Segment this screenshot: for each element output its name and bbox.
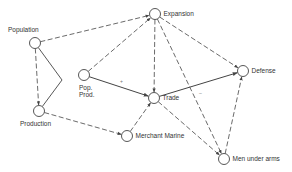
edge-expansion-trade: [154, 19, 155, 92]
label-pop-prod-line2: Prod.: [79, 91, 95, 98]
node-population: [30, 38, 41, 49]
edge-men_under_arms-defense: [225, 77, 242, 154]
node-defense: [238, 66, 249, 77]
edge-pop_prod-trade: [89, 77, 148, 96]
edge-merchant_marine-trade: [130, 103, 150, 132]
edge-production-merchant_marine: [44, 113, 121, 135]
edge-population-production: [35, 48, 38, 105]
label-pop-prod: Pop. Prod.: [79, 84, 95, 99]
label-merchant-marine: Merchant Marine: [136, 132, 185, 139]
causal-diagram: +–: [0, 0, 292, 172]
node-production: [34, 106, 45, 117]
sign-mark-1: –: [199, 90, 202, 96]
node-expansion: [150, 9, 161, 20]
edge-trade-men_under_arms: [158, 102, 219, 155]
label-pop-prod-line1: Pop.: [79, 84, 95, 91]
edge-pop_prod-expansion: [88, 18, 150, 72]
label-expansion: Expansion: [164, 10, 194, 17]
edge-population-production-bent: [38, 47, 62, 106]
node-trade: [149, 93, 160, 104]
label-population: Population: [8, 26, 39, 33]
node-men-under-arms: [219, 154, 230, 165]
node-merchant-marine: [122, 131, 133, 142]
label-production: Production: [20, 120, 51, 127]
label-men-under-arms: Men under arms: [233, 155, 280, 162]
edge-expansion-defense: [160, 17, 238, 68]
node-pop-prod: [79, 70, 90, 81]
label-defense: Defense: [252, 67, 276, 74]
label-trade: Trade: [163, 94, 180, 101]
edge-population-expansion: [40, 15, 149, 41]
sign-mark-0: +: [120, 78, 123, 84]
